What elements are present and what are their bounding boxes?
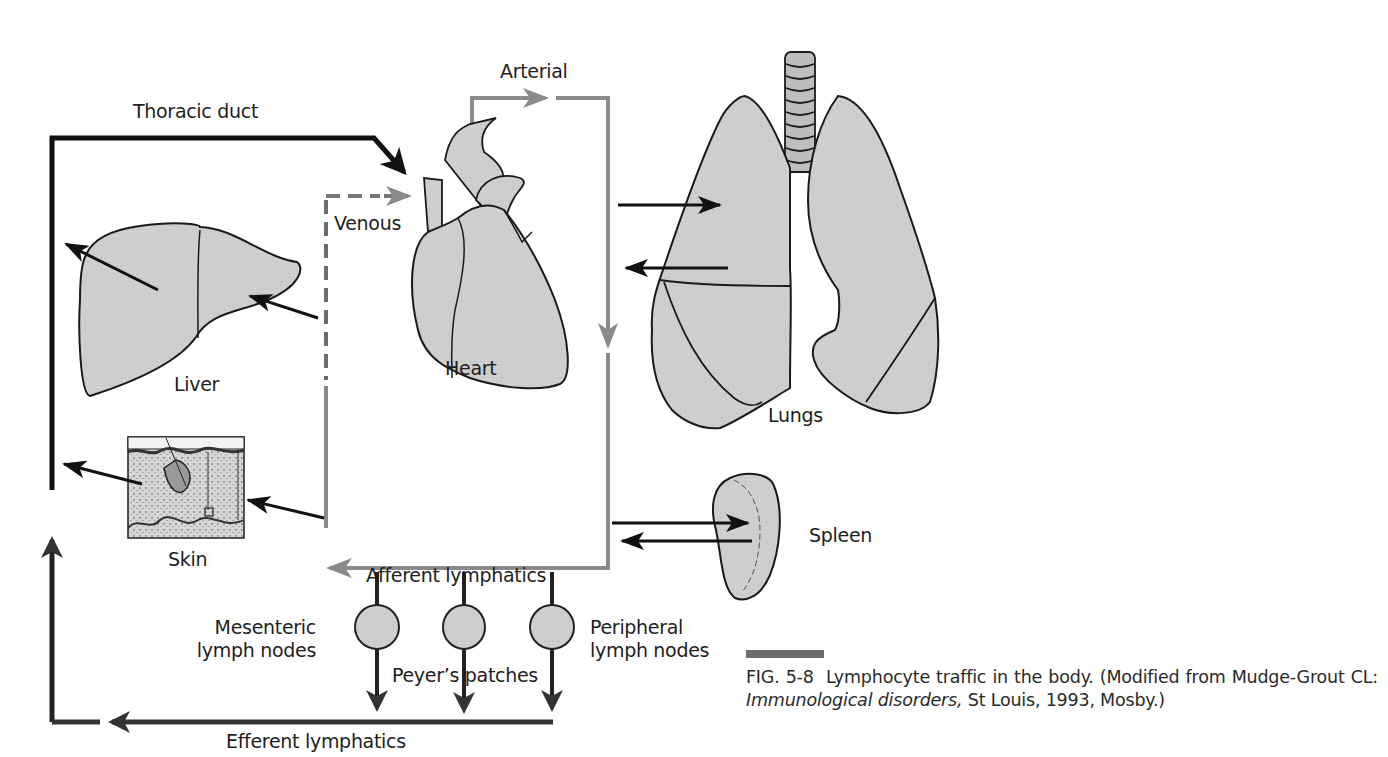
caption-bar bbox=[746, 650, 824, 658]
heart bbox=[412, 118, 568, 388]
label-mesenteric-1: Mesenteric bbox=[188, 616, 316, 638]
caption-text: Lymphocyte traffic in the body. (Modifie… bbox=[826, 667, 1378, 687]
caption-source: St Louis, 1993, Mosby.) bbox=[962, 690, 1165, 710]
trachea bbox=[785, 52, 815, 172]
peyers-node bbox=[443, 605, 485, 649]
caption-title: Immunological disorders, bbox=[746, 690, 962, 710]
label-spleen: Spleen bbox=[809, 524, 872, 546]
lungs bbox=[652, 52, 939, 428]
label-venous: Venous bbox=[334, 212, 401, 234]
liver bbox=[79, 223, 300, 396]
label-skin: Skin bbox=[168, 548, 207, 570]
skin-inset bbox=[128, 437, 244, 538]
peripheral-node bbox=[530, 605, 574, 649]
label-lungs: Lungs bbox=[768, 404, 823, 426]
label-peripheral-1: Peripheral bbox=[590, 616, 683, 638]
lymph-nodes bbox=[355, 590, 574, 710]
label-peripheral-2: lymph nodes bbox=[590, 639, 709, 661]
label-arterial: Arterial bbox=[500, 60, 568, 82]
label-peyers-patches: Peyer’s patches bbox=[392, 664, 538, 686]
caption-fig-number: FIG. 5-8 bbox=[746, 667, 814, 687]
label-afferent-lymphatics: Afferent lymphatics bbox=[366, 564, 546, 586]
label-thoracic-duct: Thoracic duct bbox=[133, 100, 258, 122]
label-efferent-lymphatics: Efferent lymphatics bbox=[226, 730, 406, 752]
spleen bbox=[713, 474, 780, 600]
mesenteric-node bbox=[355, 605, 399, 649]
label-heart: Heart bbox=[445, 357, 496, 379]
label-liver: Liver bbox=[174, 373, 219, 395]
label-mesenteric-2: lymph nodes bbox=[188, 639, 316, 661]
venous-path bbox=[326, 196, 408, 528]
figure-caption: FIG. 5-8 Lymphocyte traffic in the body.… bbox=[746, 666, 1378, 712]
